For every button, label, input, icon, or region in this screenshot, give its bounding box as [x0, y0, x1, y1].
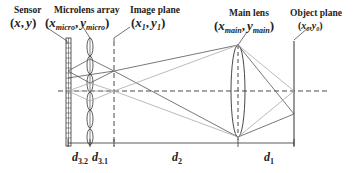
main-lens	[231, 45, 245, 140]
label-object-plane: Object plane (x0,y0)	[290, 8, 342, 32]
light-field-camera-diagram: Sensor (x,y) Microlens array (xmicro,ymi…	[0, 0, 357, 173]
label-sensor: Sensor (x,y)	[10, 5, 42, 30]
dimension-line	[68, 139, 294, 147]
dim-d1: d1	[264, 150, 274, 166]
microlens-array	[87, 38, 93, 146]
label-image-plane: Image plane (x1,y1)	[130, 5, 180, 32]
svg-text:(x,y): (x,y)	[10, 15, 36, 30]
svg-text:Object plane: Object plane	[290, 8, 342, 18]
svg-text:(x1,y1): (x1,y1)	[131, 15, 165, 32]
svg-text:Image plane: Image plane	[130, 5, 180, 15]
svg-text:(xmain,ymain): (xmain,ymain)	[214, 18, 274, 35]
svg-text:(x0,y0): (x0,y0)	[298, 20, 323, 32]
svg-text:(xmicro,ymicro): (xmicro,ymicro)	[45, 15, 109, 32]
label-microlens-array: Microlens array (xmicro,ymicro)	[45, 5, 120, 32]
svg-text:Microlens array: Microlens array	[54, 5, 120, 15]
dim-d3-1: d3.1	[92, 150, 108, 166]
dim-d2: d2	[172, 150, 182, 166]
dim-d3-2: d3.2	[72, 150, 88, 166]
label-main-lens: Main lens (xmain,ymain)	[214, 8, 274, 35]
svg-text:Main lens: Main lens	[229, 8, 269, 18]
svg-text:Sensor: Sensor	[14, 5, 42, 15]
dimension-labels: d3.2 d3.1 d2 d1	[72, 150, 274, 166]
